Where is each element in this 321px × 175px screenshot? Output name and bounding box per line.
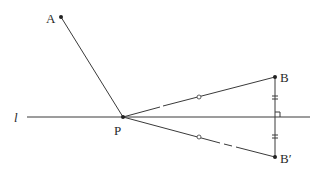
point-b bbox=[273, 75, 277, 79]
line-l-label: l bbox=[14, 110, 18, 125]
equal-mark-circle-pb bbox=[197, 95, 201, 99]
segment-ap bbox=[61, 17, 123, 117]
label-b-prime: B′ bbox=[280, 151, 292, 166]
reflection-diagram: l A P B B′ bbox=[0, 0, 321, 175]
equal-mark-circle-pb-prime bbox=[197, 135, 201, 139]
label-a: A bbox=[46, 11, 56, 26]
label-p: P bbox=[114, 123, 121, 138]
right-angle-mark bbox=[275, 112, 280, 117]
label-b: B bbox=[280, 70, 289, 85]
point-b-prime bbox=[273, 155, 277, 159]
point-p bbox=[121, 115, 125, 119]
point-a bbox=[59, 15, 63, 19]
